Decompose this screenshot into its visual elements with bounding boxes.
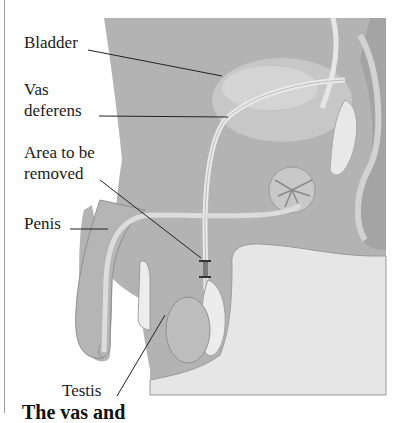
label-area-line1: Area to be (24, 143, 95, 162)
label-penis: Penis (24, 214, 61, 233)
label-bladder: Bladder (24, 33, 78, 52)
label-vas-line1: Vas (24, 80, 49, 99)
label-vas-line2: deferens (24, 101, 82, 120)
label-area-line2: removed (24, 164, 83, 183)
label-testis: Testis (62, 381, 101, 400)
figure-caption-partial: The vas and (22, 401, 125, 423)
